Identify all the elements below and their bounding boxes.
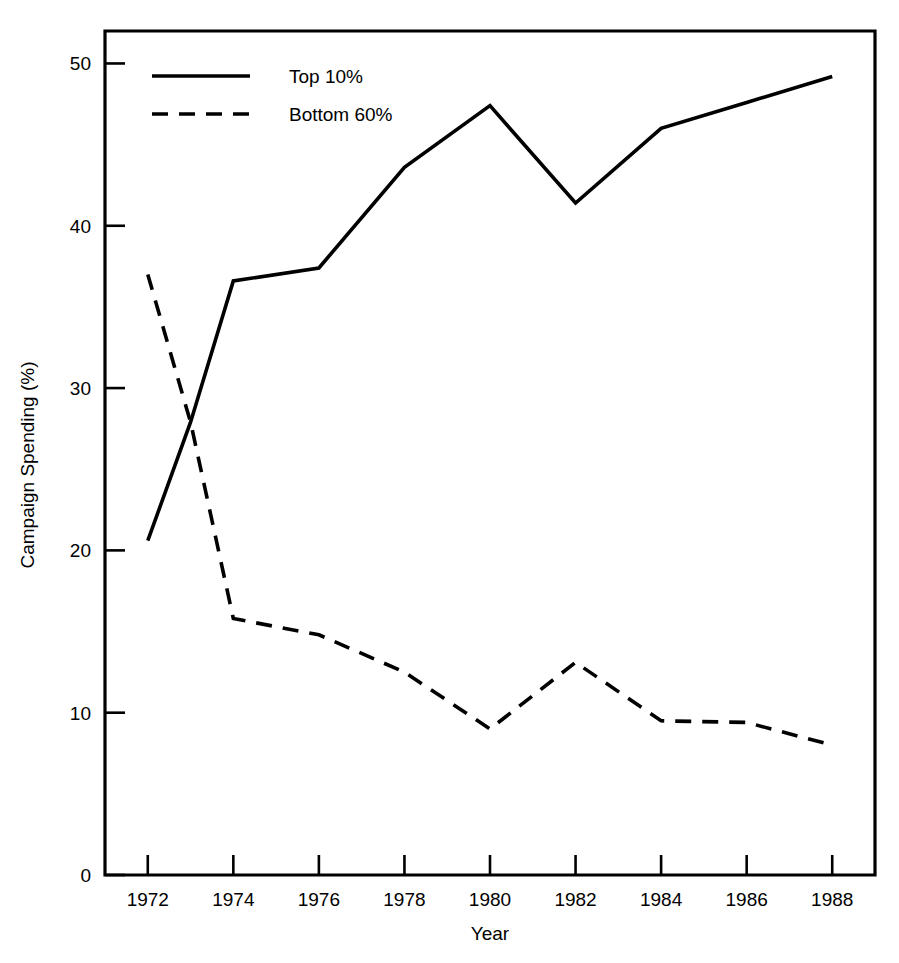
y-tick-label: 20 — [70, 540, 91, 561]
y-tick-label: 40 — [70, 216, 91, 237]
plot-border — [105, 31, 875, 875]
plot-frame — [105, 31, 875, 875]
x-tick-label: 1980 — [469, 889, 511, 910]
x-axis-ticks: 197219741976197819801982198419861988 — [127, 855, 854, 910]
chart-legend: Top 10% Bottom 60% — [152, 66, 393, 125]
legend-label-top-10: Top 10% — [289, 66, 363, 87]
y-tick-label: 0 — [80, 865, 91, 886]
x-tick-label: 1978 — [383, 889, 425, 910]
x-tick-label: 1976 — [298, 889, 340, 910]
series-line-bottom-60 — [148, 274, 832, 745]
x-tick-label: 1988 — [811, 889, 853, 910]
y-axis-title: Campaign Spending (%) — [17, 361, 38, 568]
legend-label-bottom-60: Bottom 60% — [289, 104, 393, 125]
x-tick-label: 1974 — [212, 889, 255, 910]
y-tick-label: 10 — [70, 703, 91, 724]
x-tick-label: 1984 — [640, 889, 683, 910]
x-tick-label: 1972 — [127, 889, 169, 910]
x-tick-label: 1982 — [554, 889, 596, 910]
x-axis-title: Year — [471, 923, 510, 944]
series-line-top-10 — [148, 76, 832, 540]
data-series-group — [148, 76, 832, 745]
y-tick-label: 50 — [70, 53, 91, 74]
chart-figure: 01020304050 1972197419761978198019821984… — [0, 0, 899, 963]
line-chart-canvas: 01020304050 1972197419761978198019821984… — [0, 0, 899, 963]
x-tick-label: 1986 — [726, 889, 768, 910]
y-tick-label: 30 — [70, 378, 91, 399]
y-axis-ticks: 01020304050 — [70, 53, 125, 886]
